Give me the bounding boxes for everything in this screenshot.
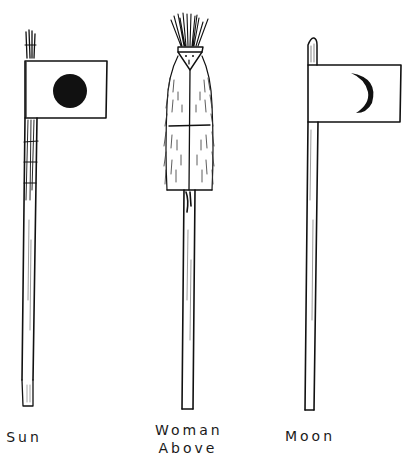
moon-staff [305, 38, 318, 410]
sun-label: Sun [4, 428, 44, 446]
woman-headdress [171, 13, 208, 46]
moon-label-text: Moon [285, 428, 335, 444]
moon-flag [308, 65, 401, 122]
moon-crescent-icon [351, 73, 373, 113]
illustration-canvas [0, 0, 416, 459]
woman-body [164, 56, 214, 190]
sun-label-text: Sun [6, 429, 42, 445]
woman-face [178, 47, 203, 70]
woman-staff [182, 190, 195, 409]
woman-above-label: Woman Above [155, 421, 221, 457]
moon-label: Moon [282, 427, 338, 445]
woman-above-label-line1: Woman [155, 421, 221, 439]
sun-disc-icon [53, 74, 87, 108]
woman-above-label-line2: Above [155, 439, 221, 457]
